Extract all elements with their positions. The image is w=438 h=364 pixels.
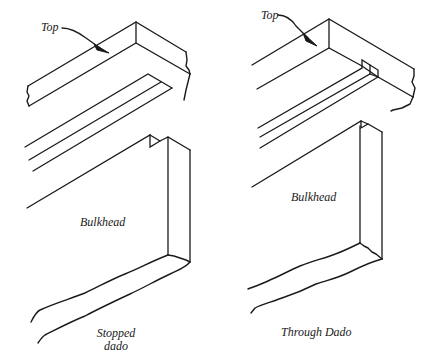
right-bulkhead-label: Bulkhead bbox=[291, 191, 336, 204]
left-top-label: Top bbox=[41, 21, 59, 34]
left-dado-groove bbox=[25, 74, 172, 171]
line-drawing bbox=[0, 0, 438, 364]
right-bulkhead bbox=[248, 121, 382, 313]
right-caption: Through Dado bbox=[281, 326, 352, 339]
right-top-label: Top bbox=[261, 9, 279, 22]
right-top-arrow bbox=[278, 15, 317, 46]
dado-joint-illustration: Top Bulkhead Stopped dado Top Bulkhead T… bbox=[0, 0, 438, 364]
left-bulkhead bbox=[27, 135, 190, 343]
left-top-arrow bbox=[62, 28, 109, 53]
right-top-board bbox=[252, 19, 415, 111]
left-caption: Stopped dado bbox=[95, 327, 137, 353]
left-caption-line2: dado bbox=[95, 340, 137, 353]
left-bulkhead-label: Bulkhead bbox=[80, 216, 125, 229]
left-top-board bbox=[27, 22, 190, 106]
